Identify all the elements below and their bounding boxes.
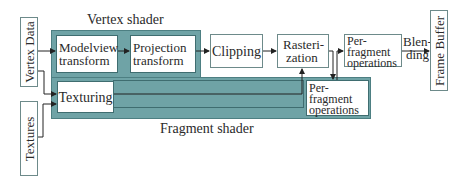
connector-lines — [0, 0, 465, 178]
